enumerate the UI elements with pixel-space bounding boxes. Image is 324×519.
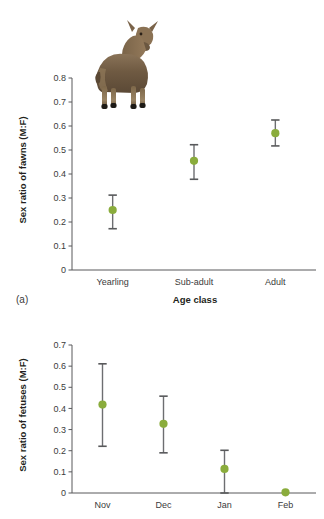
y-tick-label: 0.4: [53, 404, 66, 414]
data-point-group: [98, 364, 106, 446]
x-tick-label: Feb: [278, 500, 294, 510]
y-tick-label: 0.1: [53, 467, 66, 477]
panel-a: 00.10.20.30.40.50.60.70.8YearlingSub-adu…: [0, 0, 324, 310]
y-tick-label: 0.1: [53, 241, 66, 251]
data-marker: [220, 465, 228, 473]
x-tick-label: Dec: [155, 500, 172, 510]
y-tick-label: 0.7: [53, 97, 66, 107]
y-tick-label: 0.6: [53, 121, 66, 131]
panel-b: 00.10.20.30.40.50.60.7NovDecJanFeb Sex r…: [0, 310, 324, 519]
y-tick-label: 0.2: [53, 217, 66, 227]
y-tick-label: 0.7: [53, 340, 66, 350]
y-tick-label: 0.2: [53, 446, 66, 456]
y-tick-label: 0.5: [53, 145, 66, 155]
data-marker: [98, 401, 106, 409]
data-marker: [159, 420, 167, 428]
y-tick-label: 0.3: [53, 425, 66, 435]
y-tick-label: 0.8: [53, 73, 66, 83]
data-point-group: [159, 396, 167, 453]
x-tick-label: Yearling: [97, 277, 129, 287]
data-point-group: [271, 120, 279, 146]
data-point-group: [281, 488, 289, 496]
x-tick-label: Jan: [217, 500, 232, 510]
y-tick-label: 0.5: [53, 382, 66, 392]
data-point-group: [190, 145, 198, 180]
data-marker: [109, 206, 117, 214]
y-tick-label: 0.4: [53, 169, 66, 179]
y-tick-label: 0.3: [53, 193, 66, 203]
chart-panel-b: 00.10.20.30.40.50.60.7NovDecJanFeb: [0, 310, 324, 519]
data-point-group: [220, 450, 228, 493]
x-tick-label: Sub-adult: [175, 277, 214, 287]
data-point-group: [108, 195, 116, 229]
mule-deer-photo: [86, 16, 166, 112]
x-tick-label: Adult: [265, 277, 286, 287]
y-tick-label: 0.6: [53, 361, 66, 371]
data-marker: [190, 157, 198, 165]
y-tick-label: 0: [61, 265, 66, 275]
data-marker: [271, 129, 279, 137]
y-tick-label: 0: [61, 488, 66, 498]
x-tick-label: Nov: [94, 500, 111, 510]
data-marker: [281, 488, 289, 496]
figure-root: 00.10.20.30.40.50.60.70.8YearlingSub-adu…: [0, 0, 324, 519]
